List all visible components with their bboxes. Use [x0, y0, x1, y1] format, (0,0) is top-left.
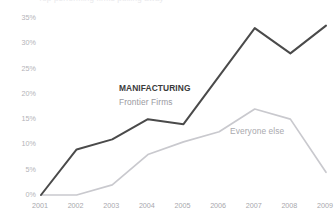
- annotation-frontier-firms: Frontier Firms: [119, 97, 173, 107]
- plot-area: [0, 0, 334, 223]
- series-line-everyone-else: [41, 109, 326, 195]
- series-line-frontier-firms: [41, 26, 326, 195]
- line-chart: Top performing firms pulling away 0%5%10…: [0, 0, 334, 223]
- annotation-everyone-else: Everyone else: [230, 126, 284, 136]
- annotation-manufacturing: MANIFACTURING: [119, 83, 191, 93]
